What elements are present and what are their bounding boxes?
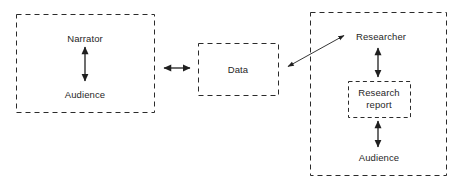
researcher-label: Researcher [356,31,406,42]
research-report-label-line2: report [366,99,391,110]
research-report-label-line1: Research [358,87,399,98]
data-to-researcher-arrow [288,36,344,67]
audience-left-label: Audience [65,89,105,100]
narrator-label: Narrator [67,33,103,44]
data-label: Data [228,64,248,75]
audience-right-label: Audience [359,152,399,163]
